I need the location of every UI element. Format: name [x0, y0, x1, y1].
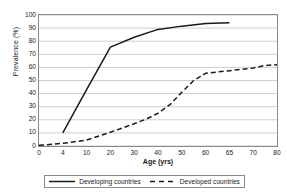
- legend-swatch-solid-icon: [49, 178, 75, 185]
- y-axis-tick-labels: 0102030405060708090100: [13, 0, 36, 193]
- x-tick-label: 65: [220, 149, 238, 157]
- y-tick-label: 50: [16, 76, 36, 83]
- x-axis-title: Age (yrs): [38, 158, 278, 165]
- y-tick-label: 60: [16, 63, 36, 70]
- gridlines: [39, 15, 277, 146]
- series-line-1: [63, 23, 230, 133]
- y-tick-label: 10: [16, 128, 36, 135]
- legend-entry[interactable]: Developed countries: [150, 178, 240, 186]
- legend-swatch-dashed-icon: [150, 178, 176, 185]
- chart-legend: Developing countriesDeveloped countries: [44, 175, 245, 188]
- y-tick-label: 40: [16, 89, 36, 96]
- y-tick-label: 80: [16, 37, 36, 44]
- x-tick-label: 80: [268, 149, 286, 157]
- y-tick-label: 30: [16, 102, 36, 109]
- x-tick-label: 10: [78, 149, 96, 157]
- x-tick-label: 40: [149, 149, 167, 157]
- y-tick-label: 90: [16, 24, 36, 31]
- y-tick-label: 0: [16, 142, 36, 149]
- x-tick-label: 30: [125, 149, 143, 157]
- legend-entry[interactable]: Developing countries: [49, 178, 141, 186]
- x-tick-label: 60: [197, 149, 215, 157]
- y-tick-label: 20: [16, 115, 36, 122]
- x-tick-label: 0: [30, 149, 48, 157]
- plot-area: [38, 14, 278, 147]
- chart-figure: Prevalence (%) 0102030405060708090100 04…: [0, 0, 287, 193]
- y-tick-label: 100: [16, 11, 36, 18]
- x-tick-label: 50: [173, 149, 191, 157]
- x-tick-label: 20: [101, 149, 119, 157]
- legend-label: Developing countries: [79, 178, 141, 186]
- x-tick-label: 70: [244, 149, 262, 157]
- x-tick-label: 4: [54, 149, 72, 157]
- legend-label: Developed countries: [180, 178, 240, 186]
- series-line-2: [39, 65, 277, 146]
- plot-svg: [39, 15, 277, 146]
- y-tick-label: 70: [16, 50, 36, 57]
